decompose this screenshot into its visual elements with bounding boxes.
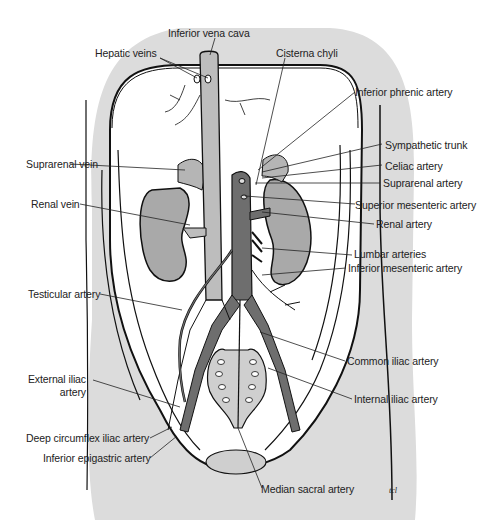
label-renal-artery: Renal artery	[376, 218, 432, 230]
bladder	[206, 450, 266, 474]
label-suprarenal-artery: Suprarenal artery	[383, 177, 462, 189]
label-internal-iliac-artery: Internal iliac artery	[354, 393, 438, 405]
label-lumbar-arteries: Lumbar arteries	[354, 248, 426, 260]
label-inferior-epigastric-artery: Inferior epigastric artery	[43, 452, 151, 464]
label-renal-vein: Renal vein	[31, 198, 80, 210]
label-inferior-mesenteric-artery: Inferior mesenteric artery	[348, 262, 462, 274]
label-median-sacral-artery: Median sacral artery	[261, 483, 354, 495]
label-testicular-artery: Testicular artery	[28, 288, 100, 300]
label-external-iliac-artery-line1: External iliac	[26, 373, 86, 385]
label-external-iliac-artery-line2: artery	[26, 386, 86, 398]
label-inferior-vena-cava: Inferior vena cava	[168, 27, 250, 39]
label-cisterna-chyli: Cisterna chyli	[276, 47, 338, 59]
label-deep-circumflex-iliac-artery: Deep circumflex iliac artery	[26, 432, 149, 444]
label-sympathetic-trunk: Sympathetic trunk	[385, 139, 467, 151]
label-inferior-phrenic-artery: Inferior phrenic artery	[355, 86, 453, 98]
label-superior-mesenteric-artery: Superior mesenteric artery	[355, 199, 476, 211]
artist-signature: tcl	[389, 486, 397, 495]
label-suprarenal-vein: Suprarenal vein	[26, 158, 98, 170]
label-common-iliac-artery: Common iliac artery	[347, 355, 438, 367]
label-celiac-artery: Celiac artery	[385, 160, 443, 172]
anatomy-diagram: Inferior vena cava Hepatic veins Cistern…	[0, 0, 500, 528]
label-hepatic-veins: Hepatic veins	[95, 47, 157, 59]
aorta	[232, 172, 252, 300]
